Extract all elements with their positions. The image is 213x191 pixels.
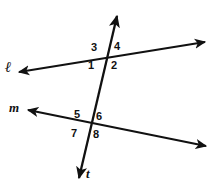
geometry-canvas xyxy=(0,0,213,191)
angle-label-1: 1 xyxy=(88,60,94,71)
angle-label-2: 2 xyxy=(111,60,117,71)
geometry-figure: ℓ m t 3 4 1 2 5 6 7 8 xyxy=(0,0,213,191)
line-t xyxy=(79,16,117,178)
angle-label-8: 8 xyxy=(93,129,99,140)
angle-label-4: 4 xyxy=(114,41,120,52)
line-label-t: t xyxy=(86,167,90,180)
line-m xyxy=(28,110,206,146)
angle-label-5: 5 xyxy=(74,109,80,120)
angle-label-7: 7 xyxy=(71,128,77,139)
line-label-l: ℓ xyxy=(5,60,11,75)
angle-label-6: 6 xyxy=(96,111,102,122)
angle-label-3: 3 xyxy=(91,42,97,53)
line-label-m: m xyxy=(9,101,19,114)
